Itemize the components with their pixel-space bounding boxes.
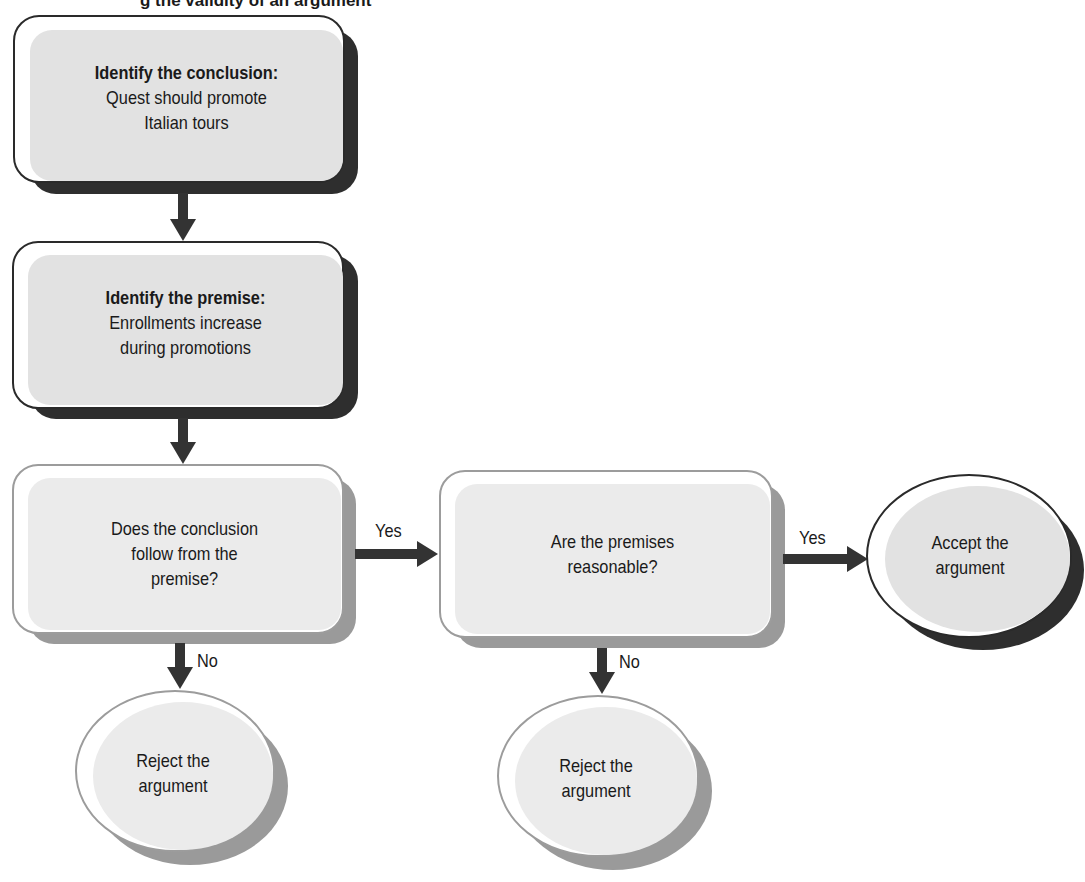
arrow-down-icon [587, 648, 617, 696]
follows-line3: premise? [151, 566, 218, 591]
reject1-line2: argument [138, 773, 207, 798]
reasonable-line1: Are the premises [551, 529, 675, 554]
edge-label-yes: Yes [375, 520, 402, 542]
premise-line1: Enrollments increase [109, 310, 262, 335]
follows-line2: follow from the [131, 541, 237, 566]
conclusion-line1: Quest should promote [106, 85, 267, 110]
follows-line1: Does the conclusion [111, 516, 258, 541]
reasonable-line2: reasonable? [568, 554, 658, 579]
edge-label-no: No [197, 650, 218, 672]
diagram-title: g the validity of an argument [140, 0, 371, 11]
conclusion-heading: Identify the conclusion: [95, 60, 278, 85]
premise-line2: during promotions [120, 335, 251, 360]
reject2-line1: Reject the [559, 753, 633, 778]
reject1-line1: Reject the [136, 748, 210, 773]
premise-heading: Identify the premise: [106, 285, 266, 310]
conclusion-line2: Italian tours [144, 110, 228, 135]
accept-line2: argument [935, 555, 1004, 580]
arrow-right-icon [783, 545, 869, 573]
reject2-line2: argument [561, 778, 630, 803]
arrow-down-icon [165, 643, 195, 691]
edge-label-no: No [619, 651, 640, 673]
arrow-down-icon [168, 418, 198, 466]
accept-line1: Accept the [931, 530, 1008, 555]
arrow-right-icon [355, 540, 439, 568]
arrow-down-icon [168, 193, 198, 243]
